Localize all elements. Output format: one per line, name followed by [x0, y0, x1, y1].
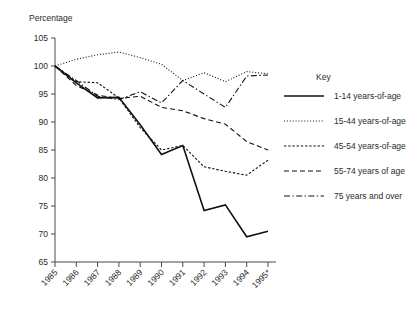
y-tick-label: 75	[39, 201, 49, 211]
y-tick-label: 70	[39, 229, 49, 239]
y-axis-title-group: Percentage	[29, 13, 73, 23]
x-tick-label: 1987	[82, 267, 103, 288]
x-axis: 1985198619871988198919901991199219931994…	[39, 262, 276, 290]
series-line	[55, 52, 268, 82]
legend-title: Key	[316, 72, 331, 82]
series-line	[55, 66, 268, 107]
line-chart-figure: Percentage 65707580859095100105 19851986…	[0, 0, 418, 309]
x-tick-label: 1991	[167, 267, 188, 288]
y-tick-label: 90	[39, 117, 49, 127]
y-tick-label: 85	[39, 145, 49, 155]
chart-legend: Key1-14 years-of-age15-44 years-of-age45…	[284, 72, 406, 201]
legend-item-label: 1-14 years-of-age	[334, 91, 401, 101]
y-tick-label: 100	[34, 61, 48, 71]
y-axis-title: Percentage	[29, 13, 73, 23]
x-tick-label: 1994	[231, 267, 252, 288]
y-tick-label: 65	[39, 257, 49, 267]
y-tick-label: 105	[34, 33, 48, 43]
x-tick-label: 1990	[145, 267, 166, 288]
x-tick-label: 1992	[188, 267, 209, 288]
legend-item-label: 45-54 years-of-age	[334, 141, 406, 151]
x-tick-label: 1986	[60, 267, 81, 288]
x-tick-label: 1988	[103, 267, 124, 288]
series-line	[55, 66, 268, 175]
y-tick-label: 95	[39, 89, 49, 99]
series-line	[55, 66, 268, 150]
x-tick-label: 1989	[124, 267, 145, 288]
legend-item-label: 55-74 years of age	[334, 166, 405, 176]
legend-item-label: 15-44 years-of-age	[334, 116, 406, 126]
x-tick-label: 1993	[209, 267, 230, 288]
x-tick-label: 1995*	[250, 267, 273, 290]
y-tick-label: 80	[39, 173, 49, 183]
series-lines	[55, 52, 268, 237]
x-tick-label: 1985	[39, 267, 60, 288]
y-axis: 65707580859095100105	[34, 33, 55, 267]
legend-item-label: 75 years and over	[334, 191, 402, 201]
